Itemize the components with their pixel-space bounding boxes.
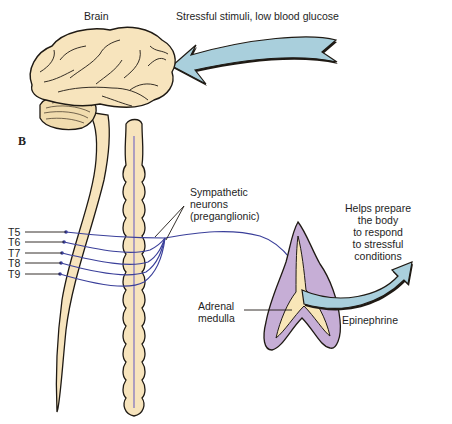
neurons-label-line1: Sympathetic xyxy=(190,186,248,198)
panel-label: B xyxy=(18,134,26,149)
effect-label-line4: to stressful xyxy=(338,238,418,250)
effect-label-line3: to respond xyxy=(338,226,418,238)
neurons-label-line3: (preganglionic) xyxy=(190,210,259,222)
effect-label-line1: Helps prepare xyxy=(338,202,418,214)
stimulus-arrow-icon xyxy=(172,37,338,86)
neurons-leader-lines xyxy=(155,206,184,240)
sympathetic-nerve-fibers xyxy=(60,232,312,296)
epinephrine-label: Epinephrine xyxy=(342,314,398,326)
spinal-column xyxy=(123,120,145,417)
level-leader-lines xyxy=(25,232,66,274)
level-t9: T9 xyxy=(8,269,20,280)
stimulus-label: Stressful stimuli, low blood glucose xyxy=(176,10,339,22)
adrenal-label-line2: medulla xyxy=(198,312,235,324)
brain-label: Brain xyxy=(84,10,109,22)
neurons-label-line2: neurons xyxy=(190,198,228,210)
spinal-cord xyxy=(57,112,110,412)
adrenal-gland-illustration xyxy=(244,222,340,350)
adrenal-label-line1: Adrenal xyxy=(198,300,234,312)
effect-label-line5: conditions xyxy=(338,250,418,262)
effect-label-line2: the body xyxy=(338,214,418,226)
